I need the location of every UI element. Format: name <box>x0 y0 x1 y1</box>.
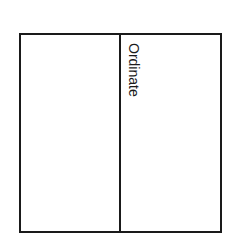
ordinate-line <box>119 33 121 233</box>
ordinate-label: Ordinate <box>127 43 141 97</box>
